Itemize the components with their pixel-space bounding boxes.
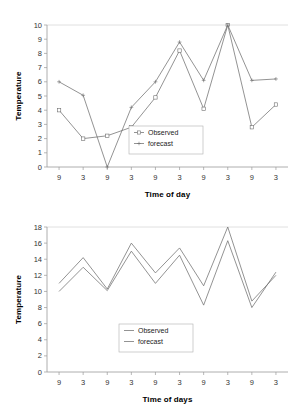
data-point-marker: [178, 40, 182, 44]
y-tick-label: 10: [34, 21, 42, 30]
legend-label-observed: Observed: [138, 327, 168, 334]
y-tick-label: 2: [38, 134, 42, 143]
y-tick-label: 4: [38, 106, 42, 115]
y-tick-label: 0: [38, 368, 42, 377]
data-point-marker: [106, 134, 109, 137]
data-point-marker: [202, 107, 205, 110]
x-tick-label: 3: [129, 173, 133, 182]
data-point-marker: [81, 93, 85, 97]
data-point-marker: [105, 165, 109, 169]
legend-marker: [137, 131, 140, 134]
x-tick-label: 3: [226, 378, 230, 387]
x-tick-label: 3: [81, 378, 85, 387]
data-point-marker: [274, 77, 278, 81]
y-tick-label: 9: [38, 35, 42, 44]
data-point-marker: [250, 126, 253, 129]
x-tick-label: 3: [226, 173, 230, 182]
data-point-marker: [154, 96, 157, 99]
x-tick-label: 3: [81, 173, 85, 182]
y-axis-title: Temperature: [14, 275, 23, 324]
x-tick-label: 9: [202, 378, 206, 387]
y-tick-label: 3: [38, 120, 42, 129]
x-tick-label: 3: [129, 378, 133, 387]
x-axis-title: Time of day: [145, 190, 191, 199]
y-tick-label: 10: [34, 287, 42, 296]
y-tick-label: 7: [38, 63, 42, 72]
x-tick-label: 9: [105, 378, 109, 387]
legend-label-forecast: forecast: [138, 338, 163, 345]
x-tick-label: 9: [202, 173, 206, 182]
y-tick-label: 8: [38, 303, 42, 312]
bottom-chart-canvas: 0246810121416189393939393TemperatureTime…: [0, 207, 306, 413]
y-axis-title: Temperature: [14, 71, 23, 120]
y-tick-label: 6: [38, 319, 42, 328]
top-chart-canvas: 0123456789109393939393TemperatureTime of…: [0, 0, 306, 207]
x-tick-label: 3: [177, 378, 181, 387]
y-tick-label: 8: [38, 49, 42, 58]
data-point-marker: [57, 80, 61, 84]
chart-page: 0123456789109393939393TemperatureTime of…: [0, 0, 306, 413]
x-tick-label: 3: [274, 378, 278, 387]
legend-label-forecast: forecast: [148, 140, 173, 147]
legend-label-observed: Observed: [148, 129, 178, 136]
x-tick-label: 9: [57, 173, 61, 182]
data-point-marker: [178, 49, 181, 52]
y-tick-label: 6: [38, 77, 42, 86]
y-tick-label: 16: [34, 239, 42, 248]
y-tick-label: 4: [38, 335, 42, 344]
y-tick-label: 0: [38, 163, 42, 172]
y-tick-label: 12: [34, 271, 42, 280]
x-tick-label: 9: [153, 378, 157, 387]
figure-top-temperature: 0123456789109393939393TemperatureTime of…: [0, 0, 306, 207]
y-tick-label: 1: [38, 148, 42, 157]
x-tick-label: 9: [153, 173, 157, 182]
x-tick-label: 3: [177, 173, 181, 182]
x-tick-label: 3: [274, 173, 278, 182]
x-tick-label: 9: [250, 378, 254, 387]
data-point-marker: [202, 78, 206, 82]
data-point-marker: [81, 137, 84, 140]
y-tick-label: 5: [38, 92, 42, 101]
x-tick-label: 9: [105, 173, 109, 182]
data-point-marker: [57, 109, 60, 112]
data-point-marker: [250, 78, 254, 82]
y-tick-label: 18: [34, 223, 42, 232]
y-tick-label: 14: [34, 255, 42, 264]
x-axis-title: Time of days: [143, 395, 193, 404]
data-point-marker: [274, 103, 277, 106]
series-line-forecast: [59, 227, 276, 301]
figure-bottom-temperature: 0246810121416189393939393TemperatureTime…: [0, 207, 306, 413]
y-tick-label: 2: [38, 351, 42, 360]
x-tick-label: 9: [250, 173, 254, 182]
x-tick-label: 9: [57, 378, 61, 387]
